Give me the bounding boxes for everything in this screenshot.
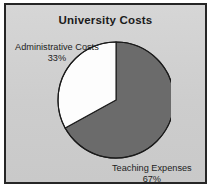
pie-label-administrative-costs: Administrative Costs 33%: [15, 42, 99, 63]
pie-label-administrative-costs-percent: 33%: [15, 53, 99, 64]
pie-label-teaching-expenses-text: Teaching Expenses: [112, 163, 192, 173]
pie-label-administrative-costs-text: Administrative Costs: [15, 42, 99, 52]
pie-label-teaching-expenses-percent: 67%: [112, 174, 192, 185]
pie-label-teaching-expenses: Teaching Expenses 67%: [112, 163, 192, 184]
chart-frame: University Costs Administrative Costs 33…: [4, 3, 207, 184]
chart-title: University Costs: [6, 14, 205, 26]
